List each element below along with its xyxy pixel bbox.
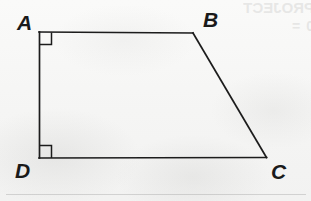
edge-CD-segment bbox=[39, 158, 267, 159]
right-angle-marker-D bbox=[39, 146, 52, 159]
edge-AB-segment bbox=[39, 32, 193, 33]
vertex-label-C: C bbox=[271, 161, 286, 182]
vertex-label-B: B bbox=[203, 9, 218, 30]
quadrilateral-figure bbox=[0, 0, 311, 201]
right-angle-markers-group bbox=[39, 33, 52, 159]
right-angle-marker-A bbox=[39, 33, 52, 45]
figure-page: PROJECT 0 = A B C D bbox=[0, 0, 311, 201]
edge-BC-segment bbox=[193, 33, 267, 158]
vertex-label-D: D bbox=[15, 160, 30, 181]
quadrilateral-outline-group bbox=[39, 32, 267, 158]
vertex-label-A: A bbox=[17, 12, 32, 33]
